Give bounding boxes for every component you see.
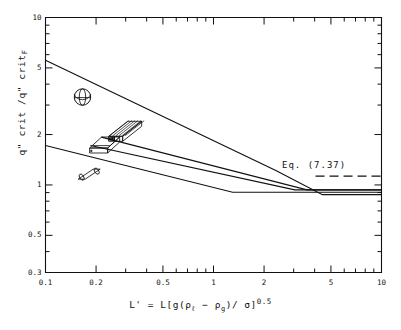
x-axis-minus: − xyxy=(196,299,215,310)
x-tick-label: 10 xyxy=(373,278,391,287)
y-tick-label: 10 xyxy=(20,13,42,22)
sphere-icon xyxy=(74,89,90,105)
x-tick-label: 0.2 xyxy=(87,278,105,287)
cylinder-icon xyxy=(78,167,100,181)
x-axis-title: L' = L[g(ρℓ − ρg)/ σ]0.5 xyxy=(0,297,401,313)
ribbed-block-icon xyxy=(109,121,145,142)
figure-root: 0.10.20.5125100.30.512510 q" crit /q" cr… xyxy=(0,0,401,330)
axis-frame xyxy=(46,18,382,273)
x-tick-label: 2 xyxy=(255,278,273,287)
axis-ticks xyxy=(46,18,382,273)
x-tick-label: 0.5 xyxy=(154,278,172,287)
y-tick-label: 0.3 xyxy=(20,268,42,277)
y-axis-title-text: q" crit /q" crit xyxy=(16,54,27,155)
x-tick-label: 1 xyxy=(205,278,223,287)
x-axis-title-suffix: )/ σ] xyxy=(226,299,257,310)
x-axis-title-prefix: L' = L[g( xyxy=(129,299,185,310)
x-axis-title-exponent: 0.5 xyxy=(257,297,272,306)
y-axis-title-subscript: F xyxy=(21,50,29,55)
data-curves xyxy=(46,60,382,194)
y-axis-title: q" crit /q" critF xyxy=(16,43,29,163)
y-tick-label: 0.5 xyxy=(20,230,42,239)
eq-737-annotation: Eq. (7.37) xyxy=(282,160,346,170)
x-tick-label: 0.1 xyxy=(37,278,55,287)
x-tick-label: 5 xyxy=(322,278,340,287)
curve-sphere xyxy=(46,60,382,194)
y-tick-label: 1 xyxy=(20,180,42,189)
